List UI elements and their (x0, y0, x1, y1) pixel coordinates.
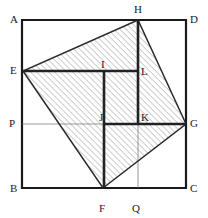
label-F: F (99, 203, 105, 214)
label-J: J (99, 112, 103, 123)
label-E: E (10, 65, 17, 76)
label-C: C (190, 183, 197, 194)
label-Q: Q (132, 203, 140, 214)
label-K: K (141, 112, 149, 123)
label-D: D (190, 14, 198, 25)
label-A: A (10, 14, 18, 25)
label-B: B (10, 183, 17, 194)
label-L: L (141, 66, 148, 77)
label-P: P (9, 118, 15, 129)
label-G: G (190, 118, 198, 129)
geometry-canvas (0, 0, 208, 218)
label-I: I (101, 59, 105, 70)
label-H: H (134, 4, 142, 15)
geometry-figure: A D B C E F G H I L J K P Q (0, 0, 208, 218)
